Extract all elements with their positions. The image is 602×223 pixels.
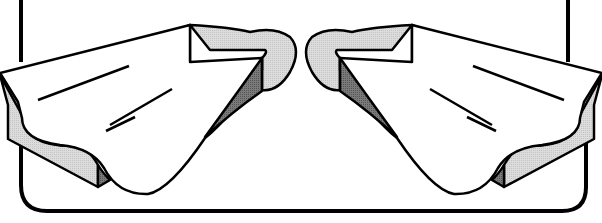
right-fin <box>306 25 602 194</box>
illustration-panel <box>0 0 602 223</box>
left-fin <box>0 25 296 194</box>
swim-fins-drawing <box>0 0 602 223</box>
